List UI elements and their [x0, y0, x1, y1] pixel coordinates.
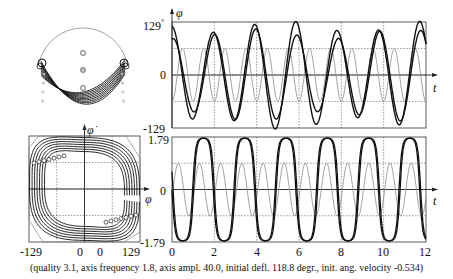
- phidot-time-plot: [172, 137, 438, 242]
- t-axis-label-top: t: [433, 82, 436, 94]
- x-tick-0: 0: [169, 246, 175, 258]
- phase-x-max-label: 129: [122, 246, 140, 258]
- phi-time-plot: [170, 8, 438, 129]
- t-axis-label-bottom: t: [433, 195, 436, 207]
- figure-caption: (quality 3.1, axis frequency 1.8, axis a…: [0, 262, 453, 273]
- top-y-max-label: 129°: [143, 17, 164, 32]
- top-y-zero-label: 0: [160, 69, 166, 81]
- phase-x-zero-a-label: 0: [77, 246, 83, 258]
- bot-y-max-label: 1.79: [148, 134, 169, 146]
- x-tick-10: 10: [377, 246, 389, 258]
- x-tick-8: 8: [338, 246, 344, 258]
- figure-canvas: [0, 0, 453, 279]
- pendulum-diagram: [37, 28, 129, 104]
- phidot-axis-label: φ̇: [87, 124, 94, 136]
- x-tick-6: 6: [296, 246, 302, 258]
- phase-portrait-plot: [29, 124, 150, 242]
- phi-axis-label: φ: [176, 7, 183, 19]
- x-tick-2: 2: [211, 246, 217, 258]
- bot-y-zero-label: 0: [160, 185, 166, 197]
- x-tick-4: 4: [254, 246, 260, 258]
- phase-x-zero-b-label: 0: [97, 246, 103, 258]
- x-tick-12: 12: [419, 246, 431, 258]
- phi-phase-axis-label: φ: [145, 193, 152, 205]
- phase-x-min-label: -129: [20, 246, 42, 258]
- bot-y-min-label: -1.79: [140, 237, 165, 249]
